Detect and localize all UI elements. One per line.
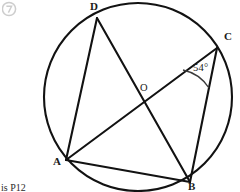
- vertex-label-D: D: [90, 0, 98, 12]
- geometry-figure: D C B A O 54° is P12: [0, 0, 240, 192]
- diagonal-DB: [97, 18, 190, 182]
- center-label-O: O: [140, 82, 148, 93]
- chord-AB: [66, 160, 190, 182]
- figure-canvas: [0, 0, 240, 192]
- chord-DA: [66, 18, 97, 160]
- vertex-label-A: A: [53, 155, 61, 167]
- vertex-label-B: B: [188, 180, 195, 192]
- vertex-label-C: C: [224, 30, 232, 42]
- caption: is P12: [1, 182, 26, 192]
- angle-label-54: 54°: [193, 62, 208, 73]
- main-circle: [44, 3, 232, 191]
